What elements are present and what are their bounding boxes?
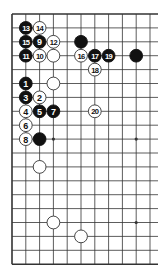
black-stone: 13	[19, 22, 32, 35]
move-number-label: 2	[37, 93, 42, 103]
stone-disc-icon	[130, 49, 143, 62]
move-number-label: 6	[23, 121, 28, 131]
move-number-label: 17	[91, 52, 99, 61]
white-stone	[75, 230, 88, 243]
stone-disc-icon	[75, 230, 88, 243]
move-number-label: 10	[36, 52, 44, 61]
move-number-label: 3	[23, 93, 28, 103]
move-number-label: 4	[23, 107, 28, 117]
white-stone: 18	[88, 63, 101, 76]
black-stone	[130, 49, 143, 62]
stone-disc-icon	[33, 133, 46, 146]
star-point-icon	[52, 138, 55, 141]
move-number-label: 20	[91, 107, 99, 116]
move-number-label: 16	[77, 52, 85, 61]
white-stone: 6	[19, 119, 32, 132]
stone-disc-icon	[75, 35, 88, 48]
white-stone: 2	[33, 91, 46, 104]
move-number-label: 7	[51, 107, 56, 117]
move-number-label: 9	[37, 37, 42, 47]
star-point-icon	[135, 221, 138, 224]
black-stone: 1	[19, 77, 32, 90]
black-stone: 19	[102, 49, 115, 62]
black-stone: 15	[19, 35, 32, 48]
white-stone: 20	[88, 105, 101, 118]
white-stone: 4	[19, 105, 32, 118]
white-stone: 12	[47, 35, 60, 48]
go-board: 1314159121110161719181324572068	[0, 0, 164, 273]
white-stone	[47, 77, 60, 90]
move-number-label: 18	[91, 66, 99, 75]
white-stone: 10	[33, 49, 46, 62]
black-stone: 11	[19, 49, 32, 62]
move-number-label: 1	[23, 79, 28, 89]
black-stone: 5	[33, 105, 46, 118]
stone-disc-icon	[47, 216, 60, 229]
black-stone	[33, 133, 46, 146]
white-stone	[47, 216, 60, 229]
move-number-label: 19	[105, 52, 113, 61]
white-stone: 14	[33, 22, 46, 35]
star-point-icon	[135, 138, 138, 141]
stone-disc-icon	[47, 49, 60, 62]
move-number-label: 8	[23, 135, 28, 145]
white-stone	[47, 49, 60, 62]
move-number-label: 13	[22, 24, 30, 33]
stone-disc-icon	[47, 77, 60, 90]
white-stone: 16	[75, 49, 88, 62]
black-stone: 3	[19, 91, 32, 104]
move-number-label: 5	[37, 107, 42, 117]
black-stone	[75, 35, 88, 48]
stone-disc-icon	[33, 161, 46, 174]
black-stone: 9	[33, 35, 46, 48]
white-stone	[33, 161, 46, 174]
black-stone: 17	[88, 49, 101, 62]
black-stone: 7	[47, 105, 60, 118]
move-number-label: 12	[50, 38, 58, 47]
white-stone: 8	[19, 133, 32, 146]
